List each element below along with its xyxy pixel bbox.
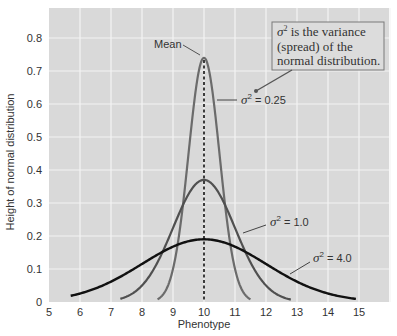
callout-line-3: normal distribution. <box>277 53 380 68</box>
mean-label: Mean <box>154 38 182 50</box>
x-tick-label: 10 <box>198 306 210 318</box>
x-axis-ticks: 56789101112131415 <box>46 306 365 318</box>
variance-label-1: σ2 = 1.0 <box>270 214 309 229</box>
variance-label-4: σ2 = 4.0 <box>313 250 352 265</box>
normal-distribution-chart: 00.10.20.30.40.50.60.70.8 56789101112131… <box>0 0 397 336</box>
y-tick-label: 0.4 <box>27 164 42 176</box>
callout-pointer-dot <box>254 89 258 93</box>
x-tick-label: 7 <box>108 306 114 318</box>
y-tick-label: 0.5 <box>27 131 42 143</box>
x-tick-label: 14 <box>322 306 334 318</box>
y-tick-label: 0.2 <box>27 230 42 242</box>
x-tick-label: 13 <box>291 306 303 318</box>
y-axis-ticks: 00.10.20.30.40.50.60.70.8 <box>27 32 42 308</box>
x-tick-label: 15 <box>353 306 365 318</box>
callout-line-2: (spread) of the <box>277 39 353 54</box>
callout-line-1: σ2 is the variance <box>277 24 366 39</box>
y-tick-label: 0.3 <box>27 197 42 209</box>
y-tick-label: 0.8 <box>27 32 42 44</box>
y-tick-label: 0.6 <box>27 98 42 110</box>
x-tick-label: 9 <box>170 306 176 318</box>
x-tick-label: 8 <box>139 306 145 318</box>
y-axis-label: Height of normal distribution <box>4 94 16 231</box>
y-tick-label: 0.1 <box>27 263 42 275</box>
x-tick-label: 6 <box>77 306 83 318</box>
y-tick-label: 0 <box>36 296 42 308</box>
x-tick-label: 12 <box>260 306 272 318</box>
x-axis-label: Phenotype <box>178 318 231 330</box>
y-tick-label: 0.7 <box>27 65 42 77</box>
x-tick-label: 5 <box>46 306 52 318</box>
x-tick-label: 11 <box>229 306 240 318</box>
